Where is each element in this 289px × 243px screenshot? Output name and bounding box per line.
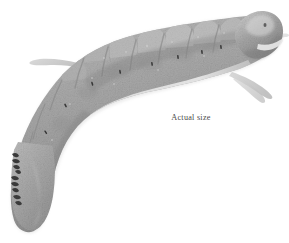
speckle bbox=[113, 83, 115, 85]
blotch bbox=[202, 42, 222, 52]
speckle bbox=[157, 69, 159, 71]
blotch bbox=[78, 86, 98, 98]
actual-size-caption: Actual size bbox=[161, 113, 221, 123]
speckle bbox=[103, 57, 105, 59]
speckle bbox=[197, 36, 199, 38]
speckle bbox=[223, 32, 225, 34]
ocellus-eye-spot bbox=[264, 23, 267, 27]
specimen-figure: Actual size bbox=[0, 0, 289, 243]
caterpillar-illustration bbox=[0, 0, 289, 243]
speckle bbox=[203, 55, 205, 57]
speckle bbox=[125, 51, 127, 53]
blotch bbox=[138, 58, 162, 70]
speckle bbox=[69, 103, 71, 105]
caterpillar-body bbox=[11, 11, 283, 233]
speckle bbox=[171, 41, 173, 43]
blotch bbox=[171, 49, 193, 61]
speckle bbox=[51, 139, 53, 141]
blotch bbox=[53, 117, 71, 131]
speckle bbox=[91, 77, 93, 79]
blotch bbox=[107, 66, 129, 78]
speckle bbox=[146, 45, 148, 47]
